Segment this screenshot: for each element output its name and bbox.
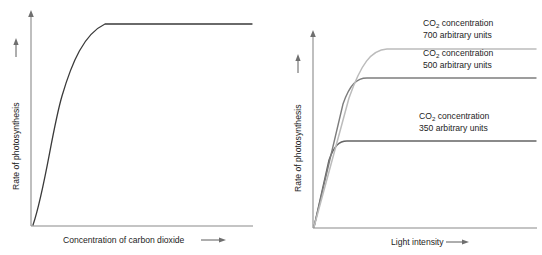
y-axis-arrowhead-right <box>310 30 316 37</box>
curve-co2-500 <box>314 78 536 227</box>
x-axis-label-left: Concentration of carbon dioxide <box>63 235 185 245</box>
chart-panel-light-response: Rate of photosynthesis CO2 concentration… <box>271 0 542 255</box>
annotation-co2-350: CO2 concentration 350 arbitrary units <box>419 111 490 133</box>
y-axis-label-group-right: Rate of photosynthesis <box>293 105 303 192</box>
annotation-co2-700: CO2 concentration 700 arbitrary units <box>423 18 494 40</box>
x-axis-label-right: Light intensity <box>391 237 444 247</box>
curve-photosynthesis-vs-co2 <box>33 24 252 225</box>
annotation-co2-500: CO2 concentration 500 arbitrary units <box>423 48 494 70</box>
annotation-350-formula-prefix: CO <box>419 111 432 121</box>
y-axis-label-group-left: Rate of photosynthesis <box>11 103 21 190</box>
y-axis-label-right: Rate of photosynthesis <box>293 105 303 192</box>
annotation-500-formula-suffix: concentration <box>439 48 493 58</box>
y-axis-label-left: Rate of photosynthesis <box>11 103 21 190</box>
annotation-500-line1: CO2 concentration <box>423 48 494 59</box>
annotation-350-line2: 350 arbitrary units <box>419 123 488 133</box>
annotation-500-formula-prefix: CO <box>423 48 436 58</box>
annotation-350-line1: CO2 concentration <box>419 111 490 122</box>
annotation-500-line2: 500 arbitrary units <box>423 60 492 70</box>
y-axis-label-arrow-right <box>295 54 300 73</box>
curve-co2-350 <box>314 141 536 227</box>
x-axis-label-arrow-right <box>446 239 469 244</box>
annotation-700-formula-prefix: CO <box>423 18 436 28</box>
annotation-700-line2: 700 arbitrary units <box>423 30 492 40</box>
figure-container: Rate of photosynthesis Concentration of … <box>0 0 542 255</box>
annotation-700-line1: CO2 concentration <box>423 18 494 29</box>
chart-panel-co2-response: Rate of photosynthesis Concentration of … <box>0 0 271 255</box>
x-axis-label-arrow-left <box>201 237 226 242</box>
annotation-350-formula-suffix: concentration <box>435 111 489 121</box>
annotation-700-formula-suffix: concentration <box>439 18 493 28</box>
y-axis-label-arrow-left <box>13 38 18 57</box>
y-axis-arrowhead-left <box>28 10 34 17</box>
curve-co2-700 <box>314 49 536 227</box>
